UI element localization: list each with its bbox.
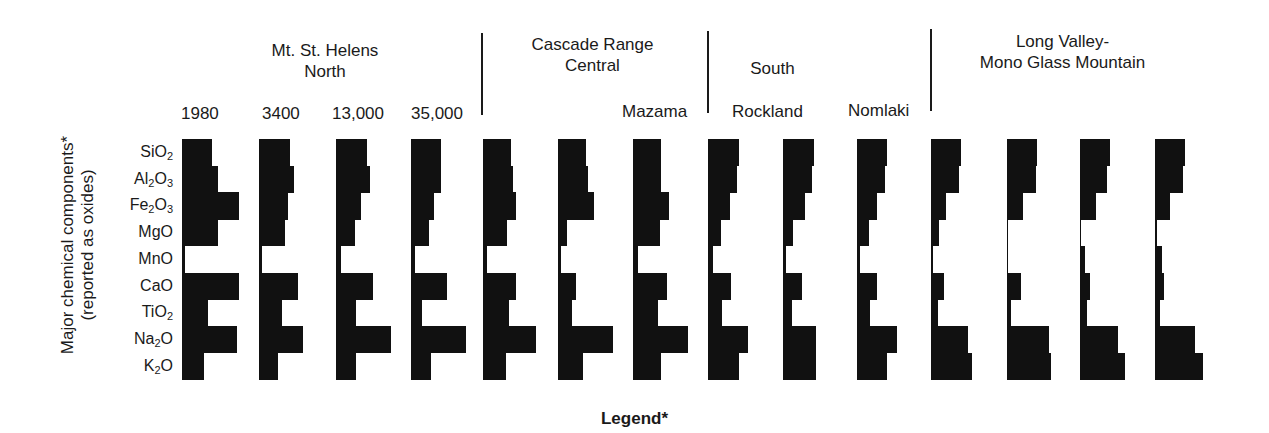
bar-k2o (411, 353, 431, 380)
bar-mgo (783, 219, 793, 246)
bar-k2o (1155, 353, 1203, 380)
bar-sio2 (857, 139, 887, 166)
bar-k2o (783, 353, 816, 380)
row-label-sio2: SiO2 (140, 142, 173, 166)
bar-mgo (411, 219, 429, 246)
bar-mgo (1155, 219, 1157, 246)
bar-al2o3 (411, 166, 441, 193)
bar-tio2 (411, 299, 422, 326)
bar-sio2 (483, 139, 511, 166)
bar-mgo (336, 219, 355, 246)
y-axis-title: Major chemical components* (reported as … (58, 90, 98, 400)
bar-cao (483, 273, 516, 300)
group-title-south: South (730, 58, 815, 79)
bar-cao (783, 273, 802, 300)
bar-k2o (857, 353, 887, 380)
row-label-cao: CaO (140, 276, 173, 296)
bar-cao (182, 273, 239, 300)
sample-label-1980: 1980 (181, 104, 219, 124)
group-separator (930, 29, 932, 111)
bar-fe2o3 (259, 192, 288, 219)
bar-mgo (182, 219, 218, 246)
bar-tio2 (483, 299, 509, 326)
bar-fe2o3 (857, 192, 877, 219)
bar-mno (182, 246, 185, 273)
bar-tio2 (857, 299, 870, 326)
bar-mno (633, 246, 638, 273)
bar-cao (1080, 273, 1090, 300)
bar-sio2 (182, 139, 212, 166)
bar-mgo (931, 219, 939, 246)
bar-sio2 (633, 139, 661, 166)
bar-fe2o3 (931, 192, 946, 219)
bar-mno (931, 246, 933, 273)
bar-mgo (1080, 219, 1081, 246)
bar-k2o (182, 353, 204, 380)
bar-fe2o3 (411, 192, 434, 219)
bar-fe2o3 (633, 192, 669, 219)
bar-k2o (259, 353, 278, 380)
sample-label-13000: 13,000 (332, 104, 384, 124)
bar-fe2o3 (336, 192, 361, 219)
bar-mgo (483, 219, 507, 246)
bar-tio2 (1007, 299, 1011, 326)
bar-al2o3 (182, 166, 218, 193)
bar-k2o (336, 353, 356, 380)
bar-mno (1080, 246, 1085, 273)
bar-sio2 (558, 139, 586, 166)
bar-k2o (483, 353, 506, 380)
bar-na2o (259, 326, 303, 353)
bar-na2o (783, 326, 816, 353)
bar-cao (1155, 273, 1164, 300)
bar-mgo (1007, 219, 1008, 246)
bar-na2o (483, 326, 536, 353)
bar-al2o3 (336, 166, 370, 193)
bar-cao (411, 273, 447, 300)
bar-sio2 (931, 139, 961, 166)
sample-label-35000: 35,000 (411, 104, 463, 124)
sample-label-nomlaki: Nomlaki (848, 101, 909, 121)
bar-tio2 (708, 299, 722, 326)
bar-na2o (182, 326, 237, 353)
bar-fe2o3 (1007, 192, 1023, 219)
bar-al2o3 (857, 166, 885, 193)
bar-mno (857, 246, 860, 273)
bar-mno (259, 246, 262, 273)
bar-k2o (1080, 353, 1125, 380)
bar-al2o3 (259, 166, 294, 193)
bar-sio2 (708, 139, 739, 166)
bar-mgo (558, 219, 567, 246)
group-title-long-valley: Long Valley- Mono Glass Mountain (955, 31, 1170, 73)
bar-na2o (633, 326, 688, 353)
row-label-k2o: K2O (144, 356, 173, 380)
group-separator (707, 31, 709, 113)
bar-na2o (857, 326, 897, 353)
sample-label-mazama: Mazama (622, 102, 687, 122)
bar-tio2 (931, 299, 938, 326)
bar-sio2 (1080, 139, 1110, 166)
bar-mno (483, 246, 487, 273)
bar-fe2o3 (708, 192, 730, 219)
bar-sio2 (259, 139, 290, 166)
bar-k2o (708, 353, 739, 380)
bar-na2o (1007, 326, 1049, 353)
bar-k2o (931, 353, 972, 380)
bar-k2o (1007, 353, 1051, 380)
bar-k2o (633, 353, 661, 380)
bar-al2o3 (783, 166, 812, 193)
bar-cao (1007, 273, 1021, 300)
bar-tio2 (1155, 299, 1160, 326)
bar-na2o (336, 326, 391, 353)
row-label-al2o3: Al2O3 (134, 169, 173, 193)
bar-al2o3 (1155, 166, 1183, 193)
legend-title: Legend* (0, 409, 1269, 429)
bar-al2o3 (483, 166, 513, 193)
bar-na2o (1080, 326, 1118, 353)
bar-na2o (708, 326, 748, 353)
bar-mno (1155, 246, 1162, 273)
bar-k2o (558, 353, 583, 380)
bar-mgo (708, 219, 721, 246)
row-label-mno: MnO (138, 249, 173, 269)
bar-al2o3 (1007, 166, 1036, 193)
group-separator (481, 33, 483, 115)
